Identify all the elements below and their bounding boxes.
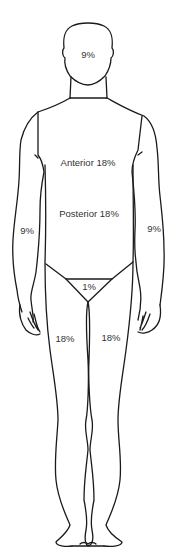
left-arm-percentage-label: 9%	[147, 224, 161, 234]
right-armpit	[138, 152, 142, 155]
right-body-side	[104, 165, 133, 546]
left-torso-side	[31, 112, 44, 322]
head-percentage-label: 9%	[81, 50, 95, 60]
body-outline-figure	[0, 0, 173, 560]
neck-left	[70, 77, 71, 98]
right-arm-percentage-label: 9%	[20, 226, 34, 236]
perineum-percentage-label: 1%	[82, 282, 96, 292]
right-hand	[138, 305, 161, 333]
right-shoulder	[107, 98, 164, 305]
right-leg-percentage-label: 18%	[55, 334, 74, 344]
left-hand	[19, 305, 40, 335]
left-shoulder	[13, 98, 70, 312]
feet-base	[72, 543, 104, 547]
neck-right	[106, 77, 107, 98]
trunk-posterior-percentage-label: Posterior 18%	[59, 209, 119, 219]
left-body-side	[45, 165, 72, 546]
inner-legs	[84, 302, 94, 546]
left-leg-percentage-label: 18%	[101, 333, 120, 343]
trunk-anterior-percentage-label: Anterior 18%	[61, 158, 116, 168]
